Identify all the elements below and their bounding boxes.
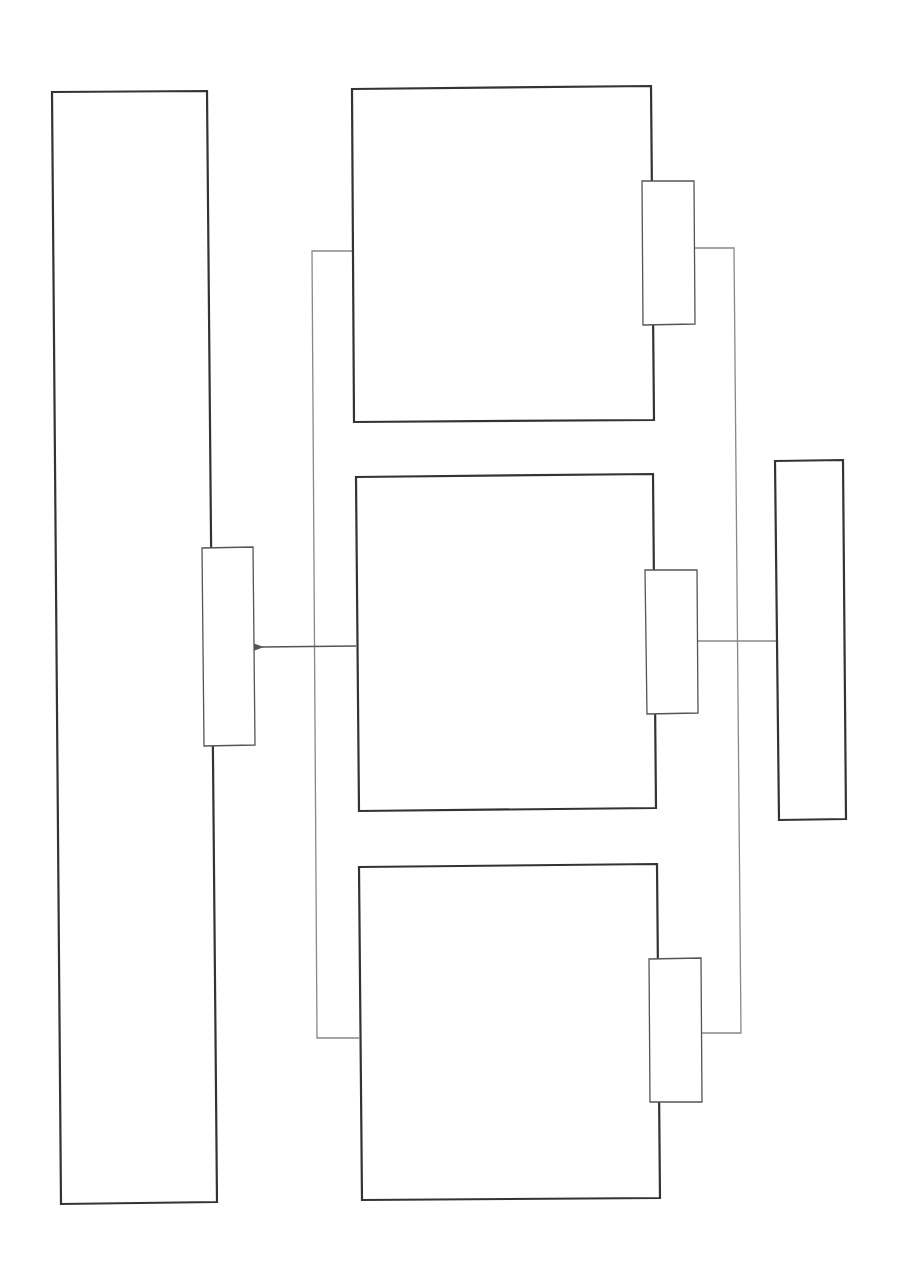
top-box-port bbox=[642, 181, 695, 325]
right-panel-box bbox=[775, 460, 846, 820]
bottom-box bbox=[359, 864, 660, 1200]
middle-box-port bbox=[645, 570, 698, 714]
top-box bbox=[352, 86, 654, 422]
left-panel-port-box bbox=[202, 547, 255, 746]
block-diagram-canvas bbox=[0, 0, 905, 1278]
left-bus-connector bbox=[312, 251, 359, 1038]
middle-to-left-arrow bbox=[262, 646, 356, 647]
middle-box bbox=[356, 474, 656, 811]
bottom-box-port bbox=[649, 958, 702, 1102]
left-panel-box bbox=[52, 91, 217, 1204]
